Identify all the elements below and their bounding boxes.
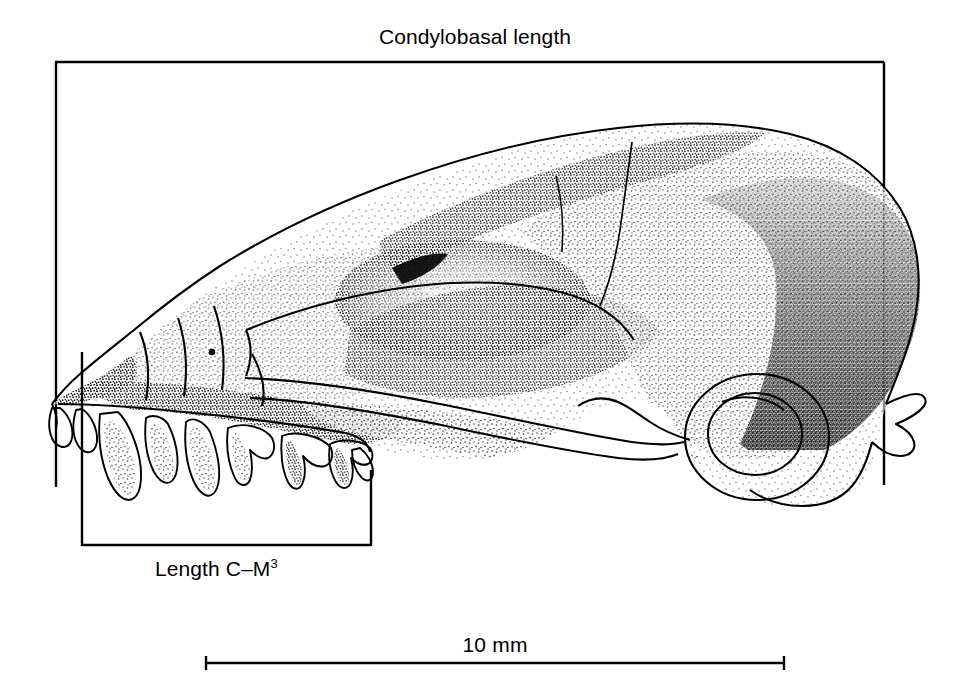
condylobasal-length-label: Condylobasal length — [0, 26, 950, 47]
scale-bar — [205, 656, 785, 670]
incisor-2 — [73, 409, 97, 452]
skull-illustration — [0, 0, 977, 692]
toothrow-length-text: Length C–M — [155, 557, 270, 580]
toothrow-length-label: Length C–M3 — [155, 558, 278, 579]
incisor-1 — [49, 408, 72, 447]
toothrow-superscript: 3 — [270, 556, 277, 571]
infraorbital-foramen — [209, 349, 215, 355]
scale-bar-label: 10 mm — [205, 634, 785, 655]
figure-canvas: Condylobasal length Length C–M3 10 mm — [0, 0, 977, 692]
